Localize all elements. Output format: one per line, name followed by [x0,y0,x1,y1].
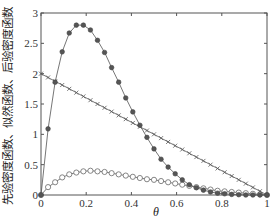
circle-marker [88,168,93,173]
plus-marker [194,155,198,159]
y-tick-label: 0 [33,189,39,201]
x-tick-label: 0.8 [215,197,229,209]
filled-circle-marker [180,178,185,183]
filled-circle-marker [194,185,199,190]
x-tick-label: 0.2 [79,197,93,209]
plus-marker [166,140,170,144]
filled-circle-marker [67,31,72,36]
filled-circle-marker [187,182,192,187]
x-axis-label: θ [153,205,159,219]
plus-marker [209,163,213,167]
filled-circle-marker [173,171,178,176]
circle-marker [67,172,72,177]
plus-marker [152,132,156,136]
plus-marker [251,185,255,189]
circle-marker [123,173,128,178]
circle-marker [116,172,121,177]
plus-marker [230,174,234,178]
circle-marker [130,174,135,179]
filled-circle-marker [201,188,206,193]
y-axis-label: 先验密度函数、似然函数、后验密度函数 [1,6,15,205]
series-filled-circle [39,23,270,197]
circle-marker [173,181,178,186]
plus-marker [46,75,50,79]
y-tick-label: 1.5 [24,98,38,110]
plus-marker [117,113,121,117]
filled-circle-marker [145,135,150,140]
filled-circle-marker [166,165,171,170]
filled-circle-marker [116,80,121,85]
plus-marker [216,166,220,170]
filled-circle-marker [159,157,164,162]
x-tick-label: 0 [38,197,44,209]
plus-marker [131,121,135,125]
plus-marker [237,178,241,182]
plus-marker [67,87,71,91]
x-tick-label: 0.4 [125,197,139,209]
plus-marker [223,170,227,174]
filled-circle-marker [208,190,213,195]
circle-marker [109,171,114,176]
filled-circle-marker [95,38,100,43]
filled-circle-marker [123,96,128,101]
plus-marker [244,182,248,186]
axes-box [41,13,267,195]
plus-marker [81,94,85,98]
series-line [41,25,267,195]
circle-marker [81,169,86,174]
filled-circle-marker [102,50,107,55]
plus-marker [159,136,163,140]
plot-series [38,23,269,198]
circle-marker [102,169,107,174]
filled-circle-marker [74,23,79,28]
y-tick-label: 3 [33,7,39,19]
plus-marker [201,159,205,163]
plus-marker [60,83,64,87]
circle-marker [144,177,149,182]
circle-marker [60,175,65,180]
plus-marker [96,102,100,106]
plus-marker [187,151,191,155]
filled-circle-marker [60,50,65,55]
chart: 先验密度函数、似然函数、后验密度函数 00.20.40.60.8100.511.… [0,0,272,222]
circle-marker [45,185,50,190]
filled-circle-marker [138,123,143,128]
y-tick-label: 1 [33,128,39,140]
plus-marker [180,148,184,152]
filled-circle-marker [109,65,114,70]
filled-circle-marker [46,127,51,132]
plus-marker [110,110,114,114]
circle-marker [95,169,100,174]
circle-marker [74,170,79,175]
circle-marker [53,180,58,185]
circle-marker [166,180,171,185]
circle-marker [151,177,156,182]
filled-circle-marker [229,192,234,197]
x-tick-label: 0.6 [170,197,184,209]
circle-marker [137,175,142,180]
filled-circle-marker [152,147,157,152]
y-tick-label: 2 [33,68,39,80]
plus-marker [88,98,92,102]
series-circle [38,168,269,197]
plus-marker [124,117,128,121]
y-tick-label: 2.5 [24,37,38,49]
y-tick-label: 0.5 [24,159,38,171]
filled-circle-marker [53,80,58,85]
plus-marker [173,144,177,148]
plus-marker [74,91,78,95]
y-axis-label-text: 先验密度函数、似然函数、后验密度函数 [1,6,15,205]
plus-marker [103,106,107,110]
circle-marker [180,182,185,187]
plus-marker [145,129,149,133]
filled-circle-marker [131,110,136,115]
x-tick-label: 1 [264,197,270,209]
filled-circle-marker [81,23,86,28]
filled-circle-marker [88,28,93,33]
circle-marker [158,178,163,183]
